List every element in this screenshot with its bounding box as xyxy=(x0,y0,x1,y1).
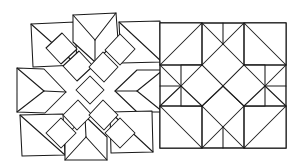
exploded-block-panel xyxy=(17,13,163,160)
quilt-block-figure xyxy=(0,0,295,167)
assembled-block-panel xyxy=(160,23,286,148)
figure-canvas xyxy=(0,0,295,167)
